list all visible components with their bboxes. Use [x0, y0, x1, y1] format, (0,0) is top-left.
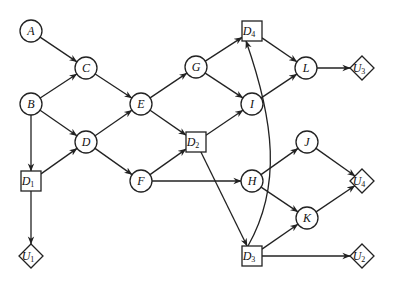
node-label: E — [136, 97, 145, 111]
edge-d3-to-k — [262, 224, 298, 249]
edge-g-to-d4 — [205, 37, 242, 61]
edge-e-to-g — [150, 73, 187, 98]
node-j: J — [296, 131, 318, 153]
node-label: L — [302, 61, 310, 75]
node-label: D — [81, 135, 91, 149]
node-l: L — [295, 57, 317, 79]
node-label: C — [82, 61, 91, 75]
node-d3: D3 — [242, 246, 262, 266]
node-label: F — [136, 174, 145, 188]
node-i: I — [241, 93, 263, 115]
node-u1: U1 — [19, 244, 43, 268]
node-label: A — [26, 24, 35, 38]
edge-d2-to-i — [206, 110, 243, 135]
edge-b-to-d — [40, 110, 77, 135]
node-b: B — [20, 93, 42, 115]
node-d: D — [75, 131, 97, 153]
node-g: G — [185, 56, 207, 78]
node-a: A — [20, 20, 42, 42]
edge-d3-to-d4 — [246, 41, 270, 246]
edge-f-to-d2 — [150, 149, 186, 175]
node-label: B — [27, 97, 35, 111]
edge-d2-to-d3 — [201, 152, 247, 246]
edge-d1-to-d — [41, 148, 77, 174]
edge-i-to-l — [261, 74, 297, 98]
node-d4: D4 — [242, 21, 262, 41]
edge-b-to-c — [40, 74, 77, 98]
node-label: K — [302, 211, 312, 225]
node-k: K — [296, 207, 318, 229]
node-h: H — [241, 170, 263, 192]
node-d1: D1 — [21, 171, 41, 191]
edge-k-to-u4 — [316, 186, 355, 212]
node-u4: U4 — [350, 169, 374, 193]
edge-d4-to-l — [262, 38, 297, 62]
edge-e-to-d2 — [150, 110, 186, 135]
edge-a-to-c — [40, 37, 77, 62]
diagram-canvas: ACBDEGD4LU3ID2D1FHJKU4D3U2U1 — [0, 0, 394, 286]
node-e: E — [130, 93, 152, 115]
node-c: C — [75, 57, 97, 79]
node-label: H — [247, 174, 258, 188]
edge-h-to-j — [261, 148, 298, 174]
node-d2: D2 — [186, 132, 206, 152]
edge-d-to-f — [95, 148, 132, 174]
node-label: G — [192, 60, 201, 74]
edge-j-to-u4 — [316, 148, 355, 176]
nodes-layer: ACBDEGD4LU3ID2D1FHJKU4D3U2U1 — [19, 20, 374, 268]
node-u3: U3 — [350, 56, 374, 80]
edge-d-to-e — [95, 110, 132, 135]
node-f: F — [130, 170, 152, 192]
node-u2: U2 — [350, 244, 374, 268]
edge-c-to-e — [95, 74, 132, 98]
influence-diagram: ACBDEGD4LU3ID2D1FHJKU4D3U2U1 — [0, 0, 394, 286]
edge-g-to-i — [205, 73, 243, 98]
node-label: J — [304, 135, 310, 149]
